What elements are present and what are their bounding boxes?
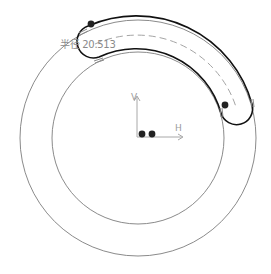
slot-start-point[interactable]	[88, 21, 95, 28]
axis-label-h: H	[175, 123, 182, 133]
sketch-canvas[interactable]	[0, 0, 271, 274]
slot-outline[interactable]	[77, 16, 253, 125]
origin-point-1[interactable]	[139, 131, 146, 138]
radius-dimension-label[interactable]: 半径 20.513	[60, 36, 115, 51]
outer-circle[interactable]	[20, 20, 256, 256]
axis-label-v: V	[131, 92, 137, 102]
origin-point-2[interactable]	[149, 131, 156, 138]
slot-end-point[interactable]	[222, 102, 229, 109]
inner-circle[interactable]	[52, 52, 224, 224]
